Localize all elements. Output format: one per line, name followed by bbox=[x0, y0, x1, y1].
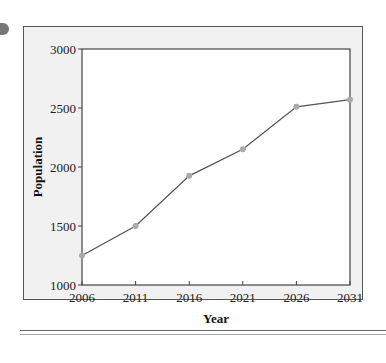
x-tick-label: 2011 bbox=[123, 290, 149, 305]
y-axis-title: Population bbox=[30, 136, 45, 197]
line-chart: 10001500200025003000 2006201120162021202… bbox=[0, 0, 386, 363]
y-axis: 10001500200025003000 bbox=[50, 42, 82, 293]
x-tick-label: 2006 bbox=[69, 290, 96, 305]
x-tick-label: 2026 bbox=[283, 290, 310, 305]
data-point bbox=[293, 104, 299, 110]
data-point bbox=[186, 173, 192, 179]
x-axis-title: Year bbox=[203, 311, 229, 326]
y-tick-label: 2000 bbox=[50, 160, 76, 175]
x-tick-label: 2021 bbox=[230, 290, 256, 305]
data-point bbox=[347, 97, 353, 103]
y-tick-label: 1500 bbox=[50, 219, 76, 234]
x-tick-label: 2016 bbox=[176, 290, 203, 305]
x-tick-label: 2031 bbox=[337, 290, 363, 305]
y-tick-label: 3000 bbox=[50, 42, 76, 57]
data-point bbox=[79, 253, 85, 259]
data-point bbox=[133, 223, 139, 229]
plot-area bbox=[82, 49, 350, 285]
data-point bbox=[240, 146, 246, 152]
y-tick-label: 2500 bbox=[50, 101, 76, 116]
